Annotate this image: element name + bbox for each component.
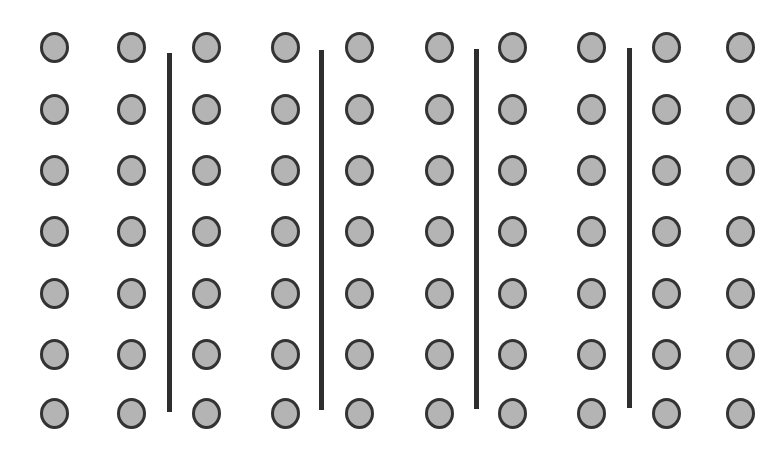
circle-r4-c2 [117,216,146,247]
circle-r2-c5 [345,94,374,125]
circle-r5-c5 [345,278,374,309]
circle-r5-c3 [192,278,221,309]
circle-r1-c7 [498,32,527,63]
circle-r7-c2 [117,398,146,429]
circle-r3-c9 [652,155,681,186]
circle-r1-c5 [345,32,374,63]
circle-r3-c10 [726,155,755,186]
circle-r1-c6 [425,32,454,63]
circle-r1-c4 [271,32,300,63]
circle-r4-c1 [40,216,69,247]
circle-r7-c6 [425,398,454,429]
circle-r6-c9 [652,339,681,370]
divider-line-3 [474,49,479,409]
circle-r6-c8 [577,339,606,370]
circle-r4-c9 [652,216,681,247]
circle-r6-c7 [498,339,527,370]
circle-r4-c3 [192,216,221,247]
circle-r6-c1 [40,339,69,370]
circle-r4-c5 [345,216,374,247]
circle-r7-c5 [345,398,374,429]
divider-line-4 [627,48,632,408]
circle-r6-c2 [117,339,146,370]
circle-r2-c1 [40,94,69,125]
circle-r6-c5 [345,339,374,370]
circle-r3-c4 [271,155,300,186]
circle-r5-c1 [40,278,69,309]
circle-r5-c2 [117,278,146,309]
circle-r5-c4 [271,278,300,309]
circle-r3-c6 [425,155,454,186]
circle-r1-c1 [40,32,69,63]
circle-r6-c4 [271,339,300,370]
circle-r7-c10 [726,398,755,429]
circle-grid-diagram [0,0,784,449]
circle-r2-c3 [192,94,221,125]
circle-r7-c1 [40,398,69,429]
circle-r5-c7 [498,278,527,309]
circle-r7-c9 [652,398,681,429]
circle-r1-c2 [117,32,146,63]
circle-r7-c4 [271,398,300,429]
circle-r7-c7 [498,398,527,429]
circle-r6-c10 [726,339,755,370]
circle-r1-c3 [192,32,221,63]
circle-r2-c2 [117,94,146,125]
circle-r2-c6 [425,94,454,125]
circle-r2-c8 [577,94,606,125]
circle-r5-c10 [726,278,755,309]
circle-r5-c8 [577,278,606,309]
circle-r4-c10 [726,216,755,247]
circle-r2-c9 [652,94,681,125]
circle-r4-c7 [498,216,527,247]
circle-r6-c6 [425,339,454,370]
divider-line-2 [319,50,324,410]
circle-r2-c10 [726,94,755,125]
circle-r3-c5 [345,155,374,186]
circle-r5-c6 [425,278,454,309]
circle-r3-c2 [117,155,146,186]
circle-r1-c8 [577,32,606,63]
divider-line-1 [167,53,172,412]
circle-r6-c3 [192,339,221,370]
circle-r1-c10 [726,32,755,63]
circle-r3-c7 [498,155,527,186]
circle-r3-c8 [577,155,606,186]
circle-r2-c4 [271,94,300,125]
circle-r4-c4 [271,216,300,247]
circle-r4-c6 [425,216,454,247]
circle-r4-c8 [577,216,606,247]
circle-r3-c1 [40,155,69,186]
circle-r2-c7 [498,94,527,125]
circle-r5-c9 [652,278,681,309]
circle-r7-c8 [577,398,606,429]
circle-r3-c3 [192,155,221,186]
circle-r1-c9 [652,32,681,63]
circle-r7-c3 [192,398,221,429]
